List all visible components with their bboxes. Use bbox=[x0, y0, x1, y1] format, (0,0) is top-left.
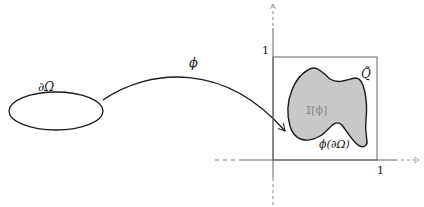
image-boundary-label: ϕ(∂Ω) bbox=[319, 138, 350, 151]
box-label: Q̃ bbox=[361, 66, 371, 81]
map-label: ϕ bbox=[189, 55, 198, 70]
map-arrow bbox=[103, 77, 285, 131]
image-set-label: 𝕀[ϕ] bbox=[306, 104, 327, 117]
diagram-canvas: ∂Ω ϕ 1 1 Q̃ 𝕀[ϕ] ϕ(∂Ω) bbox=[0, 0, 424, 207]
x-tick-label: 1 bbox=[377, 164, 384, 177]
y-tick-label: 1 bbox=[262, 44, 269, 57]
image-blob bbox=[288, 68, 367, 147]
domain-boundary-label: ∂Ω bbox=[38, 80, 54, 94]
domain-ellipse bbox=[9, 92, 103, 130]
